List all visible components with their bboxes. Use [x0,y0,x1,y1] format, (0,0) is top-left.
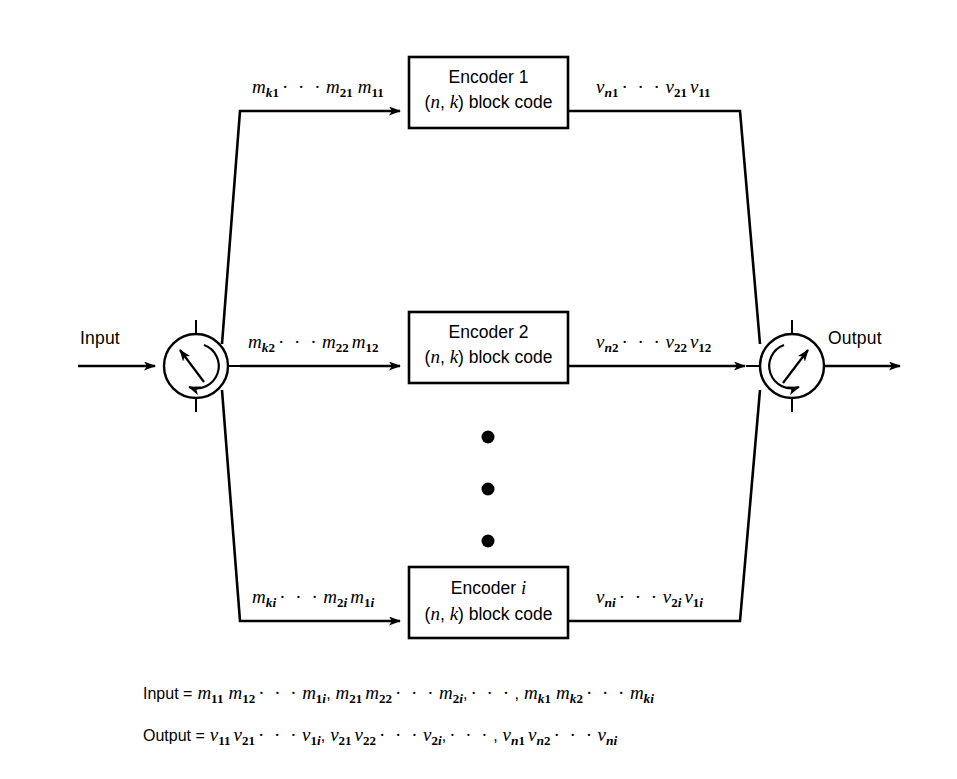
signal-label-input-2: mk2· · ·m22m12 [248,331,378,353]
encoder-label-2: Encoder 2 (n, k) block code [409,320,568,370]
merge-line-branch-1 [568,111,760,344]
caption-output-prefix: Output = [143,727,205,744]
encoder-title-i: Encoder i [409,575,568,601]
block-diagram-figure: Input Output Encoder 1 (n, k) block code… [0,0,957,779]
caption-output-line: Output =v11v21· · ·v1i,v21v22· · ·v2i,· … [143,724,617,746]
fanout-line-branch-1 [222,111,400,344]
encoder-label-i: Encoder i (n, k) block code [409,575,568,627]
encoder-title-2: Encoder 2 [409,320,568,344]
encoder-title-1: Encoder 1 [409,65,568,89]
encoder-subtitle-i: (n, k) block code [409,601,568,627]
signal-label-input-1: mk1· · ·m21m11 [252,76,384,98]
caption-input-line: Input =m11m12· · ·m1i,m21m22· · ·m2i,· ·… [143,682,654,704]
input-label: Input [80,328,120,349]
signal-label-input-i: mki· · ·m2im1i [252,586,374,608]
input-commutator-switch[interactable] [164,320,242,412]
diagram-canvas [0,0,957,779]
caption-input-prefix: Input = [143,685,192,702]
output-commutator-switch[interactable] [746,320,824,412]
encoder-subtitle-1: (n, k) block code [409,89,568,115]
input-fanout-lines [222,111,400,621]
encoder-subtitle-2: (n, k) block code [409,344,568,370]
signal-label-output-2: vn2· · ·v22v12 [596,331,711,353]
vertical-ellipsis-dots [482,431,495,548]
output-merge-lines [568,111,760,621]
encoder-label-1: Encoder 1 (n, k) block code [409,65,568,115]
signal-label-output-i: vni· · ·v2iv1i [596,586,703,608]
output-label: Output [828,328,882,349]
signal-label-output-1: vn1· · ·v21v11 [596,76,711,98]
